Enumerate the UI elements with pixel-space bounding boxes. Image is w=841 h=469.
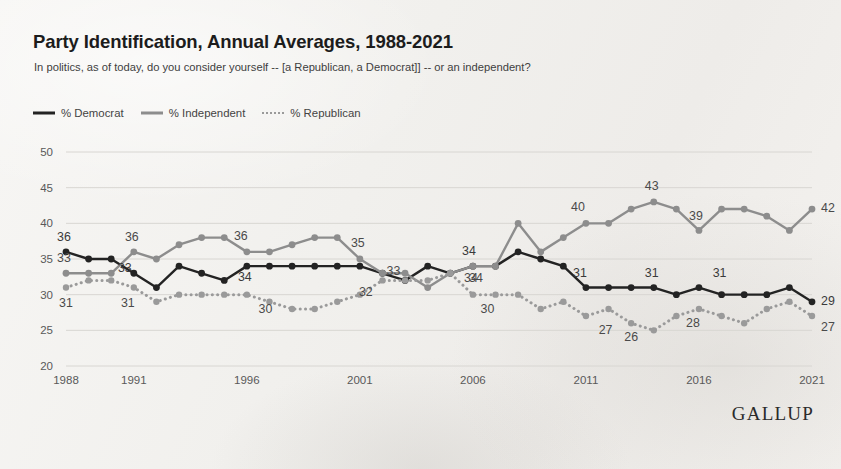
data-point-marker[interactable]: [741, 320, 747, 326]
x-axis-tick-label: 1988: [53, 374, 79, 386]
gridlines: [66, 152, 812, 366]
data-point-marker[interactable]: [244, 291, 250, 297]
data-point-marker[interactable]: [628, 206, 635, 213]
data-point-marker[interactable]: [198, 270, 205, 277]
data-point-marker[interactable]: [809, 298, 816, 305]
data-point-marker[interactable]: [786, 227, 793, 234]
data-point-marker[interactable]: [809, 206, 816, 213]
data-point-marker[interactable]: [763, 291, 770, 298]
data-point-marker[interactable]: [131, 284, 137, 290]
data-point-marker[interactable]: [628, 284, 635, 291]
data-point-marker[interactable]: [311, 263, 318, 270]
data-point-marker[interactable]: [650, 199, 657, 206]
data-point-marker[interactable]: [289, 241, 296, 248]
data-point-marker[interactable]: [289, 306, 295, 312]
data-point-marker[interactable]: [696, 227, 703, 234]
data-point-marker[interactable]: [198, 234, 205, 241]
data-point-marker[interactable]: [786, 299, 792, 305]
data-point-marker[interactable]: [266, 248, 273, 255]
data-point-marker[interactable]: [356, 256, 363, 263]
data-point-marker[interactable]: [560, 234, 567, 241]
data-point-marker[interactable]: [63, 284, 69, 290]
data-point-marker[interactable]: [492, 291, 498, 297]
data-point-marker[interactable]: [63, 270, 70, 277]
data-point-marker[interactable]: [402, 270, 409, 277]
data-point-marker[interactable]: [605, 284, 612, 291]
x-axis-tick-label: 2021: [799, 374, 825, 386]
data-point-marker[interactable]: [718, 206, 725, 213]
data-point-marker[interactable]: [176, 263, 183, 270]
data-point-marker[interactable]: [718, 291, 725, 298]
data-point-marker[interactable]: [650, 284, 657, 291]
data-point-marker[interactable]: [402, 277, 408, 283]
data-point-marker[interactable]: [85, 270, 92, 277]
data-point-marker[interactable]: [176, 291, 182, 297]
data-point-marker[interactable]: [809, 313, 815, 319]
data-point-marker[interactable]: [334, 234, 341, 241]
data-point-label: 31: [713, 266, 727, 280]
data-point-marker[interactable]: [424, 263, 431, 270]
data-point-marker[interactable]: [470, 263, 477, 270]
data-point-marker[interactable]: [605, 220, 612, 227]
data-point-marker[interactable]: [470, 291, 476, 297]
data-point-marker[interactable]: [425, 277, 431, 283]
data-point-marker[interactable]: [628, 320, 634, 326]
data-point-marker[interactable]: [583, 313, 589, 319]
data-point-marker[interactable]: [718, 313, 724, 319]
data-point-marker[interactable]: [379, 270, 386, 277]
data-point-marker[interactable]: [560, 299, 566, 305]
data-point-marker[interactable]: [673, 313, 679, 319]
data-point-marker[interactable]: [108, 277, 114, 283]
data-point-marker[interactable]: [763, 213, 770, 220]
data-point-marker[interactable]: [583, 220, 590, 227]
data-point-marker[interactable]: [221, 291, 227, 297]
data-point-marker[interactable]: [221, 234, 228, 241]
data-point-marker[interactable]: [334, 263, 341, 270]
data-point-marker[interactable]: [153, 256, 160, 263]
data-point-marker[interactable]: [560, 263, 567, 270]
data-point-marker[interactable]: [492, 263, 499, 270]
data-point-marker[interactable]: [673, 291, 680, 298]
data-point-marker[interactable]: [153, 299, 159, 305]
data-point-marker[interactable]: [515, 291, 521, 297]
data-point-marker[interactable]: [334, 299, 340, 305]
data-point-marker[interactable]: [447, 270, 453, 276]
data-point-marker[interactable]: [243, 263, 250, 270]
data-point-marker[interactable]: [605, 306, 611, 312]
data-point-marker[interactable]: [266, 263, 273, 270]
data-point-marker[interactable]: [764, 306, 770, 312]
data-point-marker[interactable]: [583, 284, 590, 291]
data-point-marker[interactable]: [537, 256, 544, 263]
data-point-marker[interactable]: [741, 291, 748, 298]
data-point-marker[interactable]: [85, 256, 92, 263]
data-point-marker[interactable]: [538, 306, 544, 312]
data-point-marker[interactable]: [379, 277, 385, 283]
data-point-marker[interactable]: [198, 291, 204, 297]
data-point-marker[interactable]: [85, 277, 91, 283]
series-line: [66, 273, 812, 330]
y-axis-tick-label: 25: [40, 324, 53, 336]
data-point-marker[interactable]: [289, 263, 296, 270]
data-point-marker[interactable]: [130, 248, 137, 255]
data-point-marker[interactable]: [424, 284, 431, 291]
data-point-marker[interactable]: [153, 284, 160, 291]
data-point-marker[interactable]: [243, 248, 250, 255]
data-point-marker[interactable]: [311, 306, 317, 312]
data-point-marker[interactable]: [221, 277, 228, 284]
data-point-marker[interactable]: [108, 270, 115, 277]
data-point-marker[interactable]: [176, 241, 183, 248]
data-point-marker[interactable]: [741, 206, 748, 213]
data-point-marker[interactable]: [515, 248, 522, 255]
data-point-marker[interactable]: [696, 306, 702, 312]
data-point-marker[interactable]: [651, 327, 657, 333]
data-point-label: 36: [234, 229, 248, 243]
data-point-marker[interactable]: [311, 234, 318, 241]
data-point-label: 39: [689, 209, 703, 223]
data-point-marker[interactable]: [696, 284, 703, 291]
data-point-marker[interactable]: [537, 248, 544, 255]
data-point-marker[interactable]: [356, 263, 363, 270]
data-point-marker[interactable]: [108, 256, 115, 263]
data-point-marker[interactable]: [673, 206, 680, 213]
data-point-marker[interactable]: [515, 220, 522, 227]
data-point-marker[interactable]: [786, 284, 793, 291]
